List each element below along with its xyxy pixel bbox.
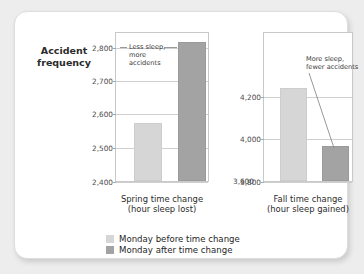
bar-fall-after [322,146,349,181]
legend-swatch-after [106,246,114,254]
annotation-more-sleep: More sleep, fewer accidents [306,55,358,71]
panel-spring: 2,800 2,700 2,600 2,500 2,400 [85,32,209,200]
gridline-2400: 2,400 [116,182,208,183]
gridline-4200: 4,200 [264,97,352,98]
legend-label-after: Monday after time change [119,245,233,255]
plot-area-spring: 2,800 2,700 2,600 2,500 2,400 [115,32,209,182]
chart-figure: Accident frequency 2,800 2,700 2,600 [0,0,364,274]
tick-mark-2500 [113,148,116,149]
gridline-4000: 4,000 [264,139,352,140]
tick-label-2600: 2,600 [92,110,113,119]
figure-card: Accident frequency 2,800 2,700 2,600 [14,11,348,259]
x-axis-label-spring-line1: Spring time change [115,194,209,204]
tick-mark-4000 [261,139,264,140]
tick-label-2800: 2,800 [92,43,113,52]
annotation-less-sleep-line3: accidents [129,59,165,67]
annotation-leader-left [120,47,127,48]
tick-mark-2400 [113,182,116,183]
gridline-3600 [264,182,352,183]
tick-label-4200: 4,200 [240,92,261,101]
tick-mark-4200 [261,97,264,98]
x-axis-label-spring-line2: (hour sleep lost) [115,204,209,214]
x-axis-label-spring: Spring time change (hour sleep lost) [115,194,209,214]
plot-area-fall: 4,200 4,000 3,800 More sleep, fewer a [263,32,353,182]
legend-label-before: Monday before time change [119,234,240,244]
tick-mark-2800 [113,48,116,49]
annotation-leader-right [164,47,177,48]
panel-fall: 4,200 4,000 3,800 More sleep, fewer a [235,32,353,200]
tick-mark-2600 [113,114,116,115]
x-axis-label-fall-line2: (hour sleep gained) [263,204,353,214]
annotation-less-sleep: Less sleep, more accidents [129,43,165,68]
annotation-less-sleep-line1: Less sleep, [129,43,165,51]
tick-label-2700: 2,700 [92,77,113,86]
tick-label-3600: 3,600 [233,176,254,185]
legend-item-before: Monday before time change [106,234,256,244]
legend-swatch-before [106,235,114,243]
bar-fall-before [280,88,307,181]
tick-label-2500: 2,500 [92,143,113,152]
tick-mark-2700 [113,81,116,82]
tick-label-2400: 2,400 [92,177,113,186]
annotation-less-sleep-line2: more [129,51,165,59]
annotation-more-sleep-line1: More sleep, [306,55,358,63]
tick-label-4000: 4,000 [240,135,261,144]
x-axis-label-fall-line1: Fall time change [263,194,353,204]
bar-spring-before [134,123,162,181]
legend: Monday before time change Monday after t… [15,234,347,255]
legend-item-after: Monday after time change [106,245,256,255]
x-axis-label-fall: Fall time change (hour sleep gained) [263,194,353,214]
annotation-more-sleep-line2: fewer accidents [306,63,358,71]
bar-spring-after [178,42,206,181]
